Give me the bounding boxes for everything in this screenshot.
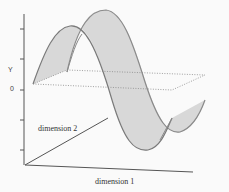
dim2-label: dimension 2 [38, 124, 77, 133]
zero-label: 0 [10, 85, 14, 92]
y-axis-label: Y [8, 66, 13, 73]
dim1-label: dimension 1 [95, 177, 134, 186]
sine-ribbon-diagram: Y 0 dimension 2 dimension 1 [0, 0, 229, 192]
diagram-svg [0, 0, 229, 192]
dim1-axis [25, 165, 193, 172]
